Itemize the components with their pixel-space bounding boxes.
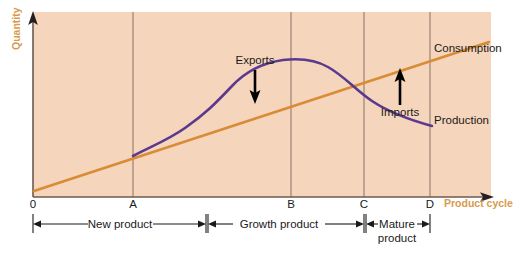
x-tick-c: C (360, 198, 368, 210)
exports-annotation-label: Exports (236, 54, 275, 66)
consumption-series-label: Consumption (434, 42, 502, 54)
x-tick-a: A (129, 198, 137, 210)
stage-label-new-product: New product (88, 218, 153, 230)
x-tick-origin: 0 (30, 198, 36, 210)
x-tick-d: D (426, 198, 434, 210)
x-tick-b: B (287, 198, 295, 210)
stage-label-growth-product: Growth product (240, 218, 319, 230)
product-cycle-chart: Quantity Product cycle 0 A B C D Consump… (0, 0, 524, 253)
imports-annotation-label: Imports (381, 106, 420, 118)
y-axis-label: Quantity (10, 7, 22, 50)
chart-canvas: Quantity Product cycle 0 A B C D Consump… (0, 0, 524, 253)
stage-label-mature-product-line2: product (378, 232, 417, 244)
x-axis-label: Product cycle (444, 197, 513, 209)
stage-label-mature-product-line1: Mature (379, 218, 415, 230)
production-series-label: Production (434, 114, 489, 126)
